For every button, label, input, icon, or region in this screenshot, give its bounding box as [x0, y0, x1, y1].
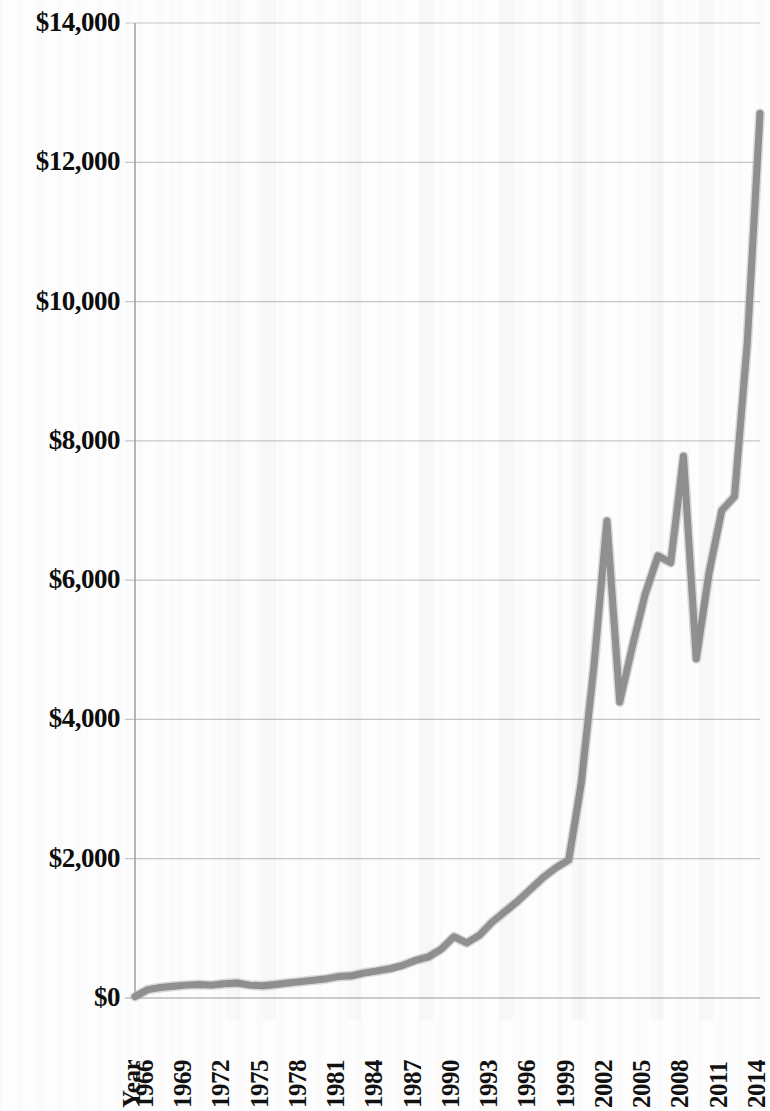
- x-axis-tick-label: 2002: [591, 1060, 616, 1108]
- x-axis-tick-label: 1975: [247, 1060, 272, 1108]
- x-axis-tick-label: 2011: [706, 1061, 731, 1108]
- x-axis-tick-labels: Year196619691972197519781981198419871990…: [0, 1022, 765, 1111]
- data-series-line: [135, 114, 760, 997]
- x-axis-tick-label: 2005: [629, 1060, 654, 1108]
- x-axis-tick-label: 1981: [323, 1060, 348, 1108]
- x-axis-tick-label: 2014: [744, 1060, 769, 1108]
- x-axis-tick-label: 1993: [476, 1060, 501, 1108]
- x-axis-tick-label: 1990: [438, 1060, 463, 1108]
- x-axis-tick-label: 2008: [667, 1060, 692, 1108]
- x-axis-tick-label: 1996: [514, 1060, 539, 1108]
- horizontal-gridlines: [125, 23, 760, 998]
- x-axis-tick-label: 1972: [208, 1060, 233, 1108]
- x-axis-tick-label: 1984: [361, 1060, 386, 1108]
- x-axis-tick-label: 1978: [285, 1060, 310, 1108]
- x-axis-tick-label: 1999: [553, 1060, 578, 1108]
- x-axis-tick-label: 1966: [132, 1060, 157, 1108]
- x-axis-tick-label: 1969: [170, 1060, 195, 1108]
- x-axis-tick-label: 1987: [400, 1060, 425, 1108]
